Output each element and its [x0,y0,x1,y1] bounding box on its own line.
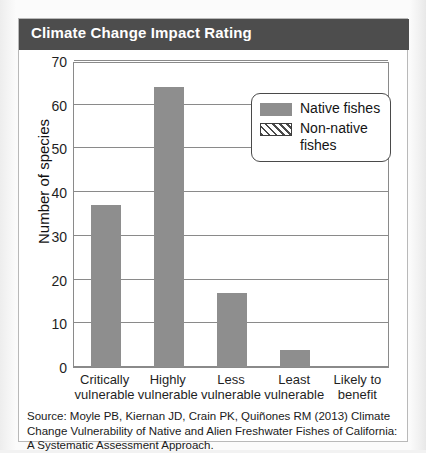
x-tick-label-line: Critically [73,372,136,387]
chart-figure: 010203040506070 Number of species Critic… [19,50,409,405]
y-tick-label: 70 [51,54,67,70]
y-tick-label: 40 [51,185,67,201]
y-tick-label: 60 [51,98,67,114]
bar [280,350,310,367]
bar [91,205,121,367]
y-tick-label: 30 [51,229,67,245]
page-title: Climate Change Impact Rating [31,24,252,41]
legend-item-label: Native fishes [300,100,380,117]
legend-item[interactable]: Native fishes [260,100,382,117]
x-tick-label: Criticallyvulnerable [73,372,136,402]
x-tick-label-line: Likely to [326,372,389,387]
gridline [74,60,388,61]
x-tick-label-line: vulnerable [199,387,262,402]
y-axis-title: Number of species [35,82,52,282]
gridline [74,191,388,192]
chart-card: Climate Change Impact Rating 01020304050… [18,18,408,442]
y-tick-label: 0 [59,360,67,376]
x-tick-label-line: vulnerable [73,387,136,402]
chart-title-bar: Climate Change Impact Rating [19,19,409,50]
chart-legend: Native fishesNon-nativefishes [251,93,391,162]
x-tick-label: Highlyvulnerable [136,372,199,402]
legend-label-line: Native fishes [300,100,380,117]
x-tick-label-line: vulnerable [136,387,199,402]
x-tick-label: Likely tobenefit [326,372,389,402]
legend-solid-swatch-icon [260,103,292,116]
legend-label-line: Non-native [300,120,368,137]
legend-item[interactable]: Non-nativefishes [260,120,382,154]
y-tick-label: 10 [51,316,67,332]
legend-label-line: fishes [300,137,368,154]
y-tick-label: 50 [51,141,67,157]
gridline [74,279,388,280]
bar [154,87,184,367]
y-tick-label: 20 [51,273,67,289]
x-tick-label-line: Highly [136,372,199,387]
x-tick-label: Lessvulnerable [199,372,262,402]
gridline [74,235,388,236]
x-tick-label-line: vulnerable [263,387,326,402]
source-caption: Source: Moyle PB, Kiernan JD, Crain PK, … [27,409,401,453]
legend-hatch-swatch-icon [260,123,292,136]
x-tick-label-line: Least [263,372,326,387]
x-tick-label-line: Less [199,372,262,387]
x-tick-label-line: benefit [326,387,389,402]
bar [217,293,247,367]
x-tick-label: Leastvulnerable [263,372,326,402]
legend-item-label: Non-nativefishes [300,120,368,154]
